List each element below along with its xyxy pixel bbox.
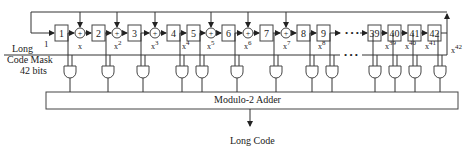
input-label: 1: [44, 39, 49, 49]
and-gate-icon: [369, 66, 381, 78]
and-gate-icon: [270, 66, 282, 78]
and-gate-icon: [231, 66, 243, 78]
and-gate-icon: [196, 66, 208, 78]
diagram-elements: 12345678939404142++++++xx2x3x4x5x6x7x8x3…: [55, 12, 463, 92]
chain-ellipsis: • • •: [345, 28, 359, 38]
adder-label: Modulo-2 Adder: [214, 94, 282, 105]
tap-label: x2: [114, 39, 122, 51]
register-label: 9: [321, 28, 326, 39]
mask-label-line3: 42 bits: [20, 65, 47, 76]
register-label: 1: [59, 28, 64, 39]
tap-label: x: [78, 42, 82, 51]
and-gate-icon: [137, 66, 149, 78]
xor-plus-icon: +: [284, 29, 289, 38]
xor-plus-icon: +: [78, 29, 83, 38]
output-label: Long Code: [230, 135, 275, 146]
xor-plus-icon: +: [153, 29, 158, 38]
xor-plus-icon: +: [209, 29, 214, 38]
tap-label: x7: [283, 39, 291, 51]
mask-label-line1: Long: [12, 43, 33, 54]
xor-plus-icon: +: [246, 29, 251, 38]
register-label: 3: [132, 28, 137, 39]
tap-label: x5: [207, 39, 215, 51]
register-label: 7: [264, 28, 269, 39]
input-arrow: [31, 12, 54, 33]
and-gate-icon: [176, 66, 188, 78]
register-label: 4: [171, 28, 176, 39]
tap-label: x6: [244, 39, 252, 51]
tap-label: x41: [425, 39, 437, 51]
register-label: 39: [370, 28, 380, 39]
mask-ellipsis: • • •: [344, 50, 358, 60]
tap-label: x42: [451, 43, 463, 55]
and-gate-icon: [326, 66, 338, 78]
and-gate-icon: [64, 66, 76, 78]
and-gate-icon: [409, 66, 421, 78]
mask-label-line2: Code Mask: [7, 54, 53, 65]
register-label: 2: [96, 28, 101, 39]
register-label: 41: [410, 28, 420, 39]
register-label: 5: [191, 28, 196, 39]
tap-label: x40: [405, 39, 417, 51]
and-gate-icon: [389, 66, 401, 78]
tap-label: x3: [151, 39, 159, 51]
tap-label: x4: [182, 39, 190, 51]
xor-plus-icon: +: [115, 29, 120, 38]
tap-label: x39: [385, 39, 397, 51]
register-label: 40: [390, 28, 400, 39]
register-label: 8: [301, 28, 306, 39]
and-gate-icon: [306, 66, 318, 78]
and-gate-icon: [434, 66, 446, 78]
and-gate-icon: [102, 66, 114, 78]
long-code-generator-diagram: 12345678939404142++++++xx2x3x4x5x6x7x8x3…: [0, 0, 471, 149]
register-label: 6: [226, 28, 231, 39]
